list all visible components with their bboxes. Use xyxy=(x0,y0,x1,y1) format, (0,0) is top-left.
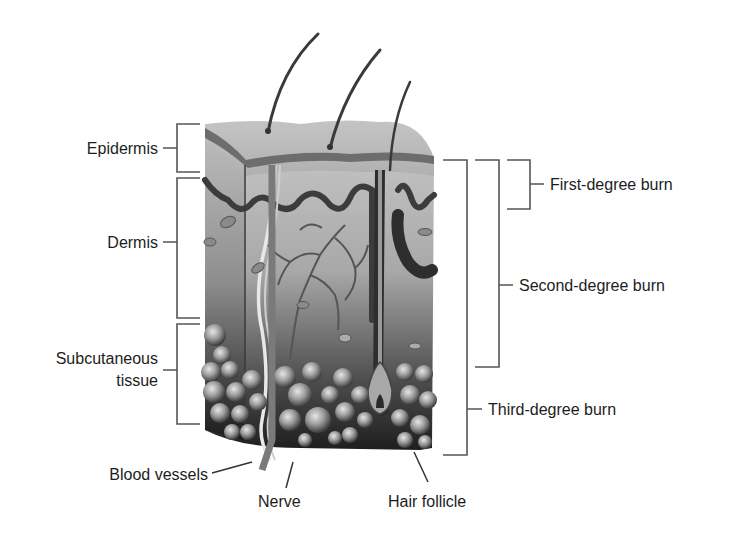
skin-block xyxy=(201,34,437,470)
pointer-nerve xyxy=(286,462,293,488)
label-dermis: Dermis xyxy=(40,233,158,252)
pointer-blood-vessels xyxy=(212,462,252,473)
label-first-degree-burn: First-degree burn xyxy=(550,175,673,194)
bracket-dermis xyxy=(163,178,200,318)
label-blood-vessels: Blood vessels xyxy=(40,465,208,484)
pointer-hair-follicle xyxy=(414,452,428,482)
label-epidermis: Epidermis xyxy=(40,139,158,158)
label-third-degree-burn: Third-degree burn xyxy=(488,400,616,419)
skin-cross-section-diagram xyxy=(0,0,732,538)
bracket-epidermis xyxy=(163,124,200,172)
label-subcutaneous-line1: Subcutaneous xyxy=(20,349,158,368)
bracket-first-degree xyxy=(507,160,544,209)
label-nerve: Nerve xyxy=(258,492,301,511)
left-brackets xyxy=(163,124,200,424)
label-second-degree-burn: Second-degree burn xyxy=(519,276,665,295)
bracket-subcutaneous xyxy=(163,324,200,424)
bracket-third-degree xyxy=(443,160,482,455)
pointer-lines xyxy=(212,452,428,488)
bracket-second-degree xyxy=(475,160,513,367)
epidermis-surface xyxy=(205,120,434,176)
label-hair-follicle: Hair follicle xyxy=(388,492,466,511)
label-subcutaneous-line2: tissue xyxy=(20,371,158,390)
